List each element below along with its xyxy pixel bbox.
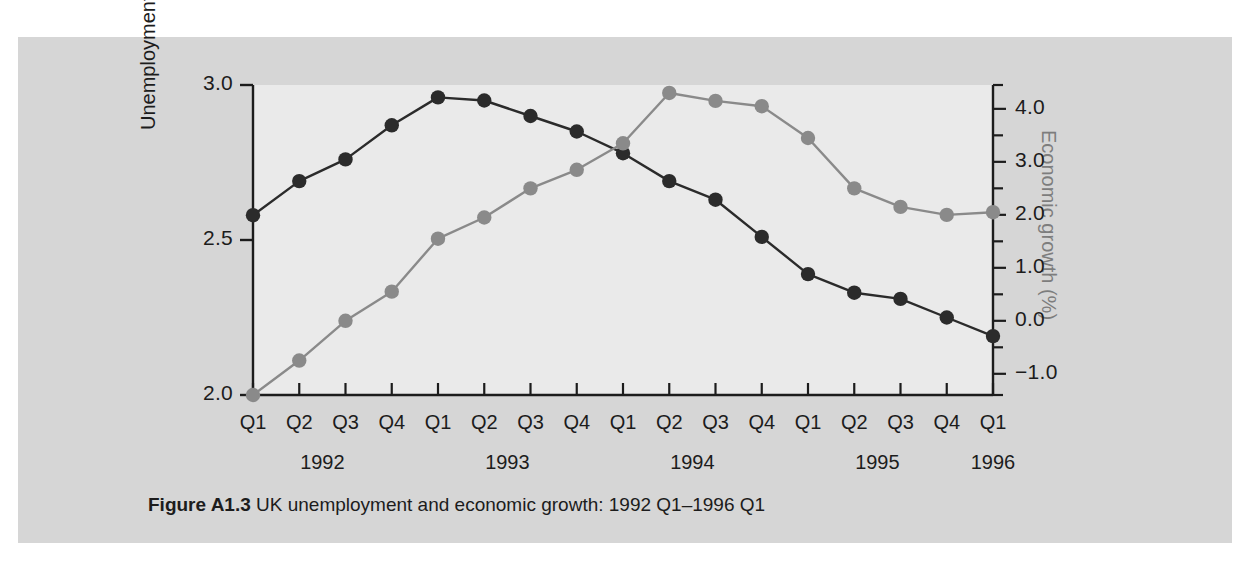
data-point xyxy=(755,230,769,244)
data-point xyxy=(986,329,1000,343)
data-point xyxy=(570,124,584,138)
data-point xyxy=(662,86,676,100)
data-point xyxy=(338,314,352,328)
data-point xyxy=(986,205,1000,219)
data-point xyxy=(755,99,769,113)
figure-container: Unemployment (millions) Economic growth … xyxy=(0,0,1255,562)
data-point xyxy=(847,181,861,195)
data-point xyxy=(431,231,445,245)
caption-label: Figure A1.3 xyxy=(148,494,251,515)
data-point xyxy=(708,94,722,108)
data-point xyxy=(662,174,676,188)
data-point xyxy=(893,200,907,214)
data-point xyxy=(570,163,584,177)
data-point xyxy=(292,174,306,188)
data-point xyxy=(246,208,260,222)
data-point xyxy=(847,286,861,300)
data-point xyxy=(523,181,537,195)
data-point xyxy=(708,193,722,207)
data-point xyxy=(616,136,630,150)
data-point xyxy=(431,90,445,104)
caption-text: UK unemployment and economic growth: 199… xyxy=(256,494,765,515)
axis-lines xyxy=(240,85,1006,395)
data-point xyxy=(385,118,399,132)
data-point xyxy=(893,292,907,306)
data-point xyxy=(523,109,537,123)
data-point xyxy=(801,131,815,145)
data-point xyxy=(338,152,352,166)
chart-plot xyxy=(0,0,1255,562)
series-layer xyxy=(246,86,1000,402)
data-point xyxy=(940,208,954,222)
data-point xyxy=(385,284,399,298)
data-point xyxy=(477,210,491,224)
data-point xyxy=(477,93,491,107)
data-point xyxy=(246,388,260,402)
data-point xyxy=(801,267,815,281)
series-line-0 xyxy=(253,97,993,336)
data-point xyxy=(292,353,306,367)
figure-caption: Figure A1.3 UK unemployment and economic… xyxy=(148,494,765,516)
data-point xyxy=(940,310,954,324)
